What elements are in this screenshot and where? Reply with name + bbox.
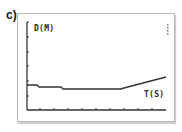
data-line bbox=[27, 77, 166, 89]
vertical-ellipsis-icon[interactable] bbox=[167, 24, 169, 35]
line-chart: D(M) T(S) bbox=[0, 0, 182, 132]
x-axis-label: T(S) bbox=[144, 90, 164, 99]
y-axis-label: D(M) bbox=[34, 24, 54, 33]
